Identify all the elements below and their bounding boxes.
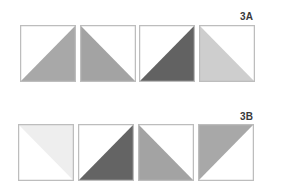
tile-3a-2: [80, 25, 136, 82]
half-square-triangle-icon: [199, 25, 255, 82]
half-square-triangle-icon: [20, 25, 76, 82]
half-square-triangle-icon: [198, 124, 254, 181]
tile-3a-4: [199, 25, 255, 82]
row-3a-label: 3A: [240, 11, 253, 22]
tile-3b-1: [18, 124, 74, 181]
tile-3a-1: [20, 25, 76, 82]
half-square-triangle-icon: [18, 124, 74, 181]
half-square-triangle-icon: [139, 25, 195, 82]
tile-3b-4: [198, 124, 254, 181]
tile-3a-3: [139, 25, 195, 82]
half-square-triangle-icon: [80, 25, 136, 82]
tile-3b-3: [138, 124, 194, 181]
tile-3b-2: [78, 124, 134, 181]
row-3b-label: 3B: [240, 111, 253, 122]
half-square-triangle-icon: [78, 124, 134, 181]
half-square-triangle-icon: [138, 124, 194, 181]
